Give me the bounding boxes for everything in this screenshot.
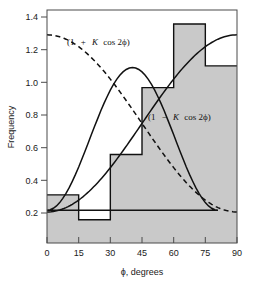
y-axis-ticks — [41, 17, 47, 213]
y-tick-label-6: 1.4 — [25, 12, 38, 22]
y-axis-title: Frequency — [6, 105, 16, 148]
y-tick-label-2: 0.6 — [25, 143, 38, 153]
x-axis-labels: 0 15 30 45 60 75 90 — [44, 248, 242, 258]
annotation-lower: (1 − K cos 2ϕ) — [148, 112, 211, 122]
y-tick-label-1: 0.4 — [25, 176, 38, 186]
chart-figure: 1.4 1.2 1.0 0.8 0.6 0.4 0.2 0 15 30 45 6… — [0, 0, 257, 287]
x-tick-label-1: 15 — [74, 248, 84, 258]
annotation-lower-text: (1 − K cos 2ϕ) — [148, 112, 211, 122]
annot-lower-op: − — [162, 112, 167, 122]
x-tick-label-6: 90 — [232, 248, 242, 258]
annot-lower-tail: cos 2ϕ) — [184, 112, 210, 122]
x-tick-label-3: 45 — [137, 248, 147, 258]
annot-lower-open: (1 — [148, 112, 156, 122]
annot-upper-tail: cos 2ϕ) — [103, 37, 129, 47]
annot-upper-k: K — [91, 37, 99, 47]
annotation-upper: (1 + K cos 2ϕ) — [67, 37, 130, 47]
x-tick-label-5: 75 — [200, 248, 210, 258]
y-tick-label-4: 1.0 — [25, 78, 38, 88]
x-tick-label-2: 30 — [105, 248, 115, 258]
x-axis-title: ϕ, degrees — [121, 267, 164, 277]
y-tick-label-0: 0.2 — [25, 208, 38, 218]
x-tick-label-4: 60 — [169, 248, 179, 258]
y-tick-label-3: 0.8 — [25, 110, 38, 120]
annotation-upper-text: (1 + K cos 2ϕ) — [67, 37, 130, 47]
annot-upper-open: (1 — [67, 37, 75, 47]
annot-upper-op: + — [81, 37, 86, 47]
y-tick-label-5: 1.2 — [25, 45, 38, 55]
chart-svg: 1.4 1.2 1.0 0.8 0.6 0.4 0.2 0 15 30 45 6… — [0, 0, 257, 287]
y-axis-labels: 1.4 1.2 1.0 0.8 0.6 0.4 0.2 — [25, 12, 38, 218]
x-tick-label-0: 0 — [44, 248, 49, 258]
annot-lower-k: K — [172, 112, 180, 122]
